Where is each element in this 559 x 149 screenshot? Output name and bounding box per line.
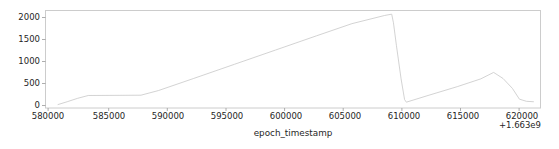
plot-frame [46, 11, 541, 109]
plot-area [0, 0, 559, 149]
chart-figure: 2000 1500 1000 500 0 580000 585000 59000… [0, 0, 559, 149]
data-line-series [58, 14, 533, 104]
ytick-marks [42, 18, 46, 106]
